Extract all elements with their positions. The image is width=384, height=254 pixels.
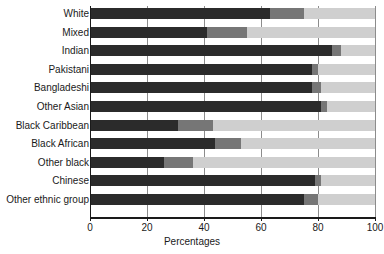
bar-segment xyxy=(90,101,321,112)
category-label: Bangladeshi xyxy=(0,82,89,93)
bar-segment xyxy=(90,82,312,93)
bar-segment xyxy=(164,157,193,168)
bar-segment xyxy=(241,138,375,149)
bar-segment xyxy=(318,194,375,205)
bar-segment xyxy=(304,194,318,205)
x-tick-40 xyxy=(204,217,205,221)
bar-segment xyxy=(90,8,270,19)
bar-segment xyxy=(193,157,375,168)
category-label: Other ethnic group xyxy=(0,194,89,205)
category-label: Black Caribbean xyxy=(0,120,89,131)
bar-segment xyxy=(270,8,304,19)
x-tick-0 xyxy=(90,217,91,221)
bar-segment xyxy=(90,157,164,168)
x-tick-label-20: 20 xyxy=(141,222,152,234)
x-tick-60 xyxy=(261,217,262,221)
category-label: Indian xyxy=(0,45,89,56)
bar-row xyxy=(90,82,375,93)
bar-row xyxy=(90,157,375,168)
plot-area xyxy=(90,6,375,218)
bar-segment xyxy=(321,82,375,93)
bar-segment xyxy=(90,45,332,56)
bar-segment xyxy=(90,194,304,205)
x-tick-label-0: 0 xyxy=(87,222,93,234)
x-tick-label-60: 60 xyxy=(255,222,266,234)
category-label: White xyxy=(0,8,89,19)
bar-segment xyxy=(215,138,241,149)
bar-segment xyxy=(90,64,312,75)
bar-segment xyxy=(207,27,247,38)
x-tick-label-100: 100 xyxy=(367,222,384,234)
x-tick-label-40: 40 xyxy=(198,222,209,234)
category-label: Other black xyxy=(0,157,89,168)
bar-segment xyxy=(90,27,207,38)
bar-segment xyxy=(312,82,321,93)
x-axis-line xyxy=(90,217,376,219)
stacked-bar-chart: 020406080100 WhiteMixedIndianPakistaniBa… xyxy=(0,0,384,254)
bar-segment xyxy=(327,101,375,112)
bar-row xyxy=(90,64,375,75)
category-label: Chinese xyxy=(0,175,89,186)
bar-segment xyxy=(178,120,212,131)
x-tick-label-80: 80 xyxy=(312,222,323,234)
bar-segment xyxy=(304,8,375,19)
bar-row xyxy=(90,138,375,149)
bar-segment xyxy=(321,175,375,186)
category-label: Other Asian xyxy=(0,101,89,112)
bar-row xyxy=(90,45,375,56)
category-label: Black African xyxy=(0,138,89,149)
bar-row xyxy=(90,175,375,186)
bar-row xyxy=(90,8,375,19)
bar-row xyxy=(90,27,375,38)
bar-segment xyxy=(90,138,215,149)
x-tick-100 xyxy=(375,217,376,221)
bar-segment xyxy=(318,64,375,75)
bar-row xyxy=(90,194,375,205)
bar-row xyxy=(90,120,375,131)
bar-segment xyxy=(90,175,315,186)
x-tick-20 xyxy=(147,217,148,221)
category-label: Mixed xyxy=(0,27,89,38)
category-label: Pakistani xyxy=(0,64,89,75)
bar-segment xyxy=(213,120,375,131)
bar-segment xyxy=(90,120,178,131)
x-tick-80 xyxy=(318,217,319,221)
bar-segment xyxy=(247,27,375,38)
bar-row xyxy=(90,101,375,112)
bar-segment xyxy=(332,45,341,56)
gridline-100 xyxy=(375,6,376,218)
x-axis-title: Percentages xyxy=(0,236,384,247)
bar-segment xyxy=(341,45,375,56)
y-axis-line xyxy=(90,6,91,218)
